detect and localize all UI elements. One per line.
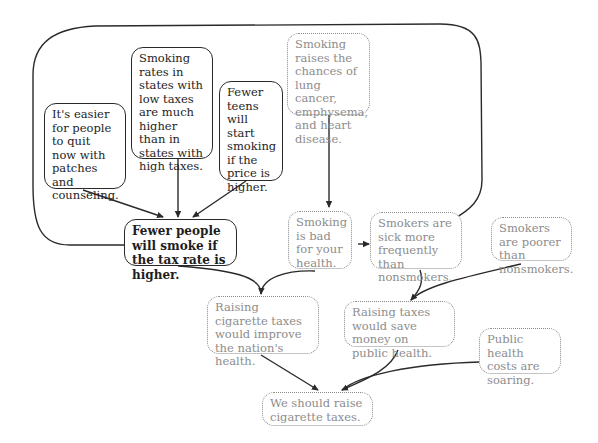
edge-fewer-to-improve [178,266,261,294]
node-fewer-teens: Fewer teens will start smoking if the pr… [219,81,283,181]
node-raises-chances: Smoking raises the chances of lung cance… [287,33,370,115]
edge-improve-to-conclusion [261,355,318,390]
node-poorer: Smokers are poorer than nonsmokers. [491,217,572,261]
node-easier-to-quit: It's easier for people to quit now with … [44,103,126,189]
node-fewer-people-smoke: Fewer people will smoke if the tax rate … [124,219,237,266]
node-save-money: Raising taxes would save money on public… [344,301,455,347]
node-conclusion: We should raise cigarette taxes. [262,392,373,426]
node-smoking-rates-states: Smoking rates in states with low taxes a… [131,47,213,159]
node-sick-more: Smokers are sick more frequently than no… [370,212,462,269]
node-costs-soaring: Public health costs are soaring. [479,328,561,374]
edge-costs-to-conclusion [342,362,480,390]
node-bad-for-health: Smoking is bad for your health. [288,211,352,269]
edge-bad-to-improve [261,271,315,294]
argument-diagram: It's easier for people to quit now with … [0,0,598,443]
node-improve-health: Raising cigarette taxes would improve th… [207,296,319,354]
